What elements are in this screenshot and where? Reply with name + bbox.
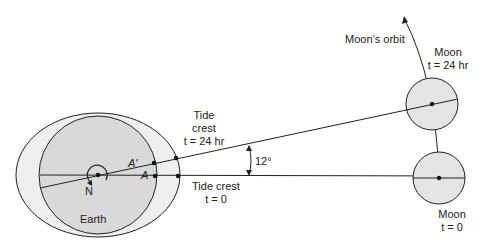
moon-t24-label: Moon t = 24 hr [420, 46, 476, 72]
point-a-label: A [141, 169, 148, 182]
moon-orbit-label: Moon’s orbit [345, 33, 405, 46]
point-a-prime [152, 161, 156, 165]
moon-t24-center [430, 102, 434, 106]
tide-crest-24-label: Tide crest t = 24 hr [168, 109, 240, 148]
angle-label: 12° [255, 155, 272, 168]
moon-t0-label: Moon t = 0 [432, 208, 472, 234]
point-a-prime-label: A′ [128, 157, 137, 170]
tide-crest-0-label: Tide crest t = 0 [182, 180, 250, 206]
earth-label: Earth [80, 213, 106, 226]
north-pole-dot [96, 173, 100, 177]
tide-crest-24-point [174, 156, 178, 160]
point-a [153, 174, 157, 178]
north-pole-label: N [85, 185, 93, 198]
tide-crest-0-point [176, 174, 180, 178]
moon-t0-center [437, 176, 441, 180]
tide-diagram [0, 0, 484, 250]
